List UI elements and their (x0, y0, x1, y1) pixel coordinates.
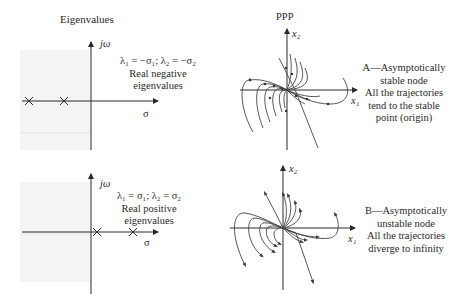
description-a-line4: tend to the stable (339, 100, 469, 113)
imag-axis-label-b: jω (100, 178, 110, 190)
trajectories-a (242, 54, 348, 148)
trajectories-b (234, 193, 338, 282)
eigen-equation-a: λ₁ = −σ₁; λ₂ = −σ₂ (108, 55, 208, 67)
description-b-line4: diverge to infinity (341, 243, 471, 256)
eigen-caption-a-line2: eigenvalues (108, 80, 208, 92)
real-axis-label-b: σ (144, 237, 150, 249)
description-b: B—Asymptotically unstable node All the t… (341, 205, 471, 255)
description-a-line5: point (origin) (339, 112, 469, 125)
diagram-canvas (0, 0, 471, 306)
description-a-line1: A—Asymptotically (339, 62, 469, 75)
eigen-caption-a-line1: Real negative (108, 68, 208, 80)
eigen-equation-b: λ₁ = σ₁; λ₂ = σ₂ (110, 190, 188, 202)
eigen-caption-b-line1: Real positive (110, 203, 188, 215)
real-axis-label-a: σ (143, 108, 149, 120)
description-b-line3: All the trajectories (341, 230, 471, 243)
x2-axis-label-a: x₂ (292, 28, 300, 40)
description-b-line2: unstable node (341, 218, 471, 231)
imag-axis-label-a: jω (100, 38, 110, 50)
description-a-line3: All the trajectories (339, 87, 469, 100)
x2-axis-label-b: x₂ (289, 163, 297, 175)
phase-portrait-b (230, 166, 355, 290)
eigen-caption-b-line2: eigenvalues (110, 215, 188, 227)
eigenvalues-column-title: Eigenvalues (60, 13, 114, 25)
phase-portrait-title: PPP (276, 11, 294, 23)
description-a-line2: stable node (339, 75, 469, 88)
description-b-line1: B—Asymptotically (341, 205, 471, 218)
description-a: A—Asymptotically stable node All the tra… (339, 62, 469, 125)
